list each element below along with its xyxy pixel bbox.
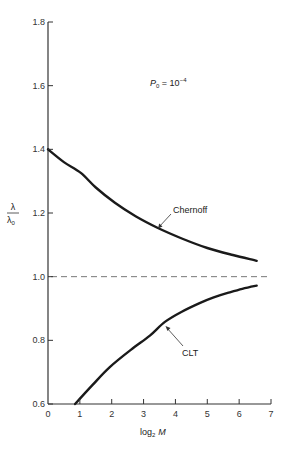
chart: 0.60.81.01.21.41.61.8 01234567 λ λ0 log2… [0, 0, 284, 453]
clt-label: CLT [182, 348, 199, 358]
series-chernoff-curve [48, 149, 257, 260]
x-tick-label: 5 [205, 409, 210, 419]
x-label-var: M [158, 427, 166, 437]
y-tick-label: 1.6 [32, 81, 45, 91]
y-tick-label: 1.0 [32, 272, 45, 282]
y-tick-label: 1.2 [32, 208, 45, 218]
x-label-sub: 2 [152, 432, 156, 438]
y-axis-label: λ λ0 [7, 202, 19, 226]
x-axis-ticks: 01234567 [45, 399, 273, 419]
clt-arrow [166, 326, 184, 346]
x-tick-label: 1 [77, 409, 82, 419]
x-tick-label: 7 [268, 409, 273, 419]
p0-annotation: P0 = 10−4 [150, 77, 187, 89]
x-label-log: log [140, 427, 152, 437]
y-label-numerator: λ [11, 202, 16, 212]
y-tick-label: 1.4 [32, 144, 45, 154]
p0-eq: = 10 [159, 78, 179, 88]
y-tick-label: 0.8 [32, 335, 45, 345]
x-tick-label: 0 [45, 409, 50, 419]
y-tick-label: 0.6 [32, 399, 45, 409]
series-clt-curve [75, 286, 257, 404]
y-label-denominator-sub: 0 [12, 220, 16, 226]
p0-sup: −4 [180, 77, 188, 83]
y-axis-ticks: 0.60.81.01.21.41.61.8 [32, 17, 53, 409]
x-tick-label: 6 [237, 409, 242, 419]
y-tick-label: 1.8 [32, 17, 45, 27]
x-tick-label: 2 [109, 409, 114, 419]
svg-text:λ0: λ0 [7, 215, 16, 226]
x-tick-label: 3 [141, 409, 146, 419]
x-axis-label: log2M [140, 427, 166, 438]
chernoff-label: Chernoff [173, 205, 208, 215]
x-tick-label: 4 [173, 409, 178, 419]
chernoff-arrow [158, 214, 171, 229]
